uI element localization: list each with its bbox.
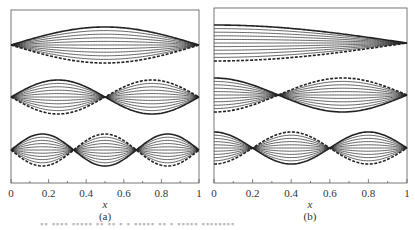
mode-curve: [11, 27, 199, 45]
tick-label: 0.4: [284, 187, 298, 199]
mode-curve: [11, 45, 199, 63]
tick-label: 1: [196, 187, 202, 199]
figure-canvas: 0 0.2 0.4 0.6 0.8 1 x (a) 0 0.2 0.4 0.6 …: [0, 0, 415, 230]
tick-label: 0: [8, 187, 14, 199]
panel-b: [214, 8, 407, 183]
tick-label: 0.4: [79, 187, 93, 199]
x-axis-label: x: [102, 198, 108, 210]
tick-label: 1: [404, 187, 410, 199]
tick-label: 0.8: [155, 187, 169, 199]
x-axis-label: x: [307, 198, 313, 210]
tick-label: 0.2: [42, 187, 56, 199]
tick-label: 0.8: [362, 187, 376, 199]
tick-label: 0.6: [323, 187, 337, 199]
figure-caption-cropped: ▪▪ ▪▪▪▪ ▪▪▪▪▪ ▪▪ ▪▪ ▪ ▪ ▪▪▪▪▪ ▪▪ ▪ ▪▪▪▪▪…: [40, 219, 380, 230]
panel-a: [11, 10, 199, 183]
tick-label: 0.6: [117, 187, 131, 199]
tick-label: 0.2: [246, 187, 260, 199]
tick-label: 0: [211, 187, 217, 199]
